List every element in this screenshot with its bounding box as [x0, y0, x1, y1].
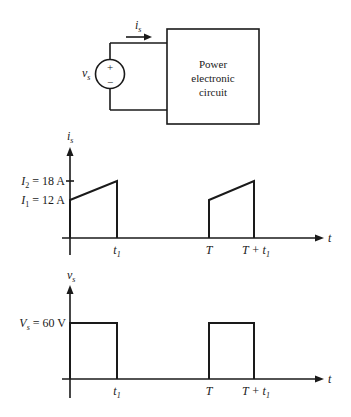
tick-T: T — [206, 243, 214, 257]
circuit-schematic: + − vs is Power electronic circuit — [82, 18, 259, 124]
box-label-line-1: Power — [199, 58, 227, 70]
vs-level-label: Vs = 60 V — [19, 316, 66, 332]
x-axis-arrow-icon — [315, 235, 324, 242]
voltage-pulse-2 — [209, 323, 254, 379]
power-circuit-diagram: + − vs is Power electronic circuit is t … — [0, 0, 351, 417]
box-label-line-2: electronic — [191, 72, 234, 84]
voltage-waveform-plot: vs t Vs = 60 V t1 T T + t1 — [19, 268, 332, 400]
current-arrow-icon — [144, 34, 152, 41]
y-axis-arrow-icon — [67, 147, 74, 156]
vs-axis-label: vs — [67, 268, 75, 284]
is-axis-label: is — [67, 129, 73, 145]
voltage-pulse-1 — [70, 323, 117, 379]
current-pulse-1 — [70, 181, 117, 238]
tick-t1: t1 — [113, 384, 120, 400]
tick-t1: t1 — [113, 243, 120, 259]
i2-label: I2 = 18 A — [20, 174, 65, 190]
tick-T-plus-t1: T + t1 — [242, 384, 270, 400]
tick-T: T — [206, 384, 214, 398]
y-axis-arrow-icon — [67, 285, 74, 294]
source-label: vs — [82, 66, 90, 82]
current-pulse-2 — [209, 181, 254, 238]
box-label-line-3: circuit — [199, 86, 227, 98]
minus-sign: − — [107, 76, 113, 88]
tick-T-plus-t1: T + t1 — [242, 243, 270, 259]
t-axis-label: t — [328, 231, 332, 245]
plus-sign: + — [107, 61, 113, 73]
i1-label: I1 = 12 A — [20, 193, 65, 209]
x-axis-arrow-icon — [315, 376, 324, 383]
current-label: is — [135, 18, 141, 34]
t-axis-label: t — [328, 372, 332, 386]
current-waveform-plot: is t I2 = 18 A I1 = 12 A t1 T T + t1 — [20, 129, 332, 259]
